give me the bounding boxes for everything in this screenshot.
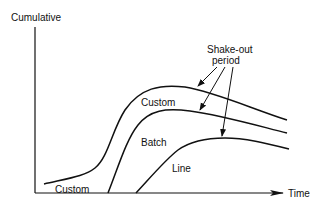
y-axis-label: Cumulative xyxy=(11,12,61,23)
x-axis-label: Time xyxy=(288,188,310,199)
line-curve-label: Line xyxy=(172,163,191,174)
pointer-arrow-line xyxy=(222,67,233,136)
annotation-line2: period xyxy=(212,55,240,66)
custom-curve-label: Custom xyxy=(141,97,175,108)
batch-curve-label: Batch xyxy=(141,137,167,148)
batch-curve xyxy=(108,110,287,193)
lifecycle-diagram: Cumulative Time Custom Batch Line Custom… xyxy=(0,0,333,210)
annotation-line1: Shake-out xyxy=(207,44,253,55)
pointer-arrow-custom xyxy=(198,67,217,86)
early-custom-label: Custom xyxy=(55,184,89,195)
pointer-arrow-batch xyxy=(200,67,225,110)
